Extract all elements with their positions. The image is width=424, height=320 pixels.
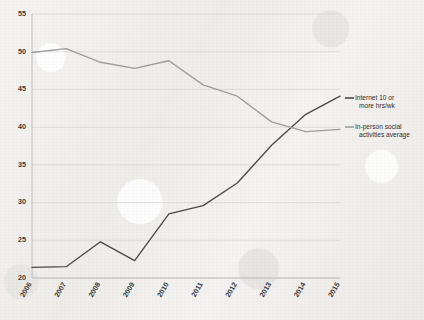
x-axis-tick-label: 2014 [292, 281, 308, 299]
x-axis-tick-labels: 2006200720082009201020112012201320142015 [18, 280, 342, 298]
y-axis-tick-label: 55 [18, 9, 26, 18]
line-chart: 2025303540455055 20062007200820092010201… [0, 0, 424, 320]
legend-label: Internet 10 or [355, 94, 395, 101]
series-line [32, 96, 340, 267]
x-axis-tick-label: 2006 [18, 281, 34, 299]
y-axis-tick-label: 25 [18, 235, 26, 244]
chart-canvas: 2025303540455055 20062007200820092010201… [0, 0, 424, 320]
x-axis-tick-label: 2013 [257, 281, 273, 299]
y-axis-tick-label: 35 [18, 160, 26, 169]
y-axis-tick-label: 40 [18, 122, 26, 131]
y-axis-tick-labels: 2025303540455055 [18, 9, 26, 282]
legend-label: more hrs/wk [359, 102, 396, 109]
x-axis-tick-label: 2007 [52, 281, 68, 299]
y-axis-tick-label: 30 [18, 197, 26, 206]
y-axis-tick-label: 50 [18, 47, 26, 56]
x-axis-tick-label: 2008 [86, 281, 102, 299]
legend-label: activities average [359, 131, 410, 139]
x-axis-tick-label: 2015 [326, 281, 342, 299]
x-axis-tick-label: 2011 [189, 280, 205, 298]
series-line [32, 49, 340, 132]
chart-legend: Internet 10 ormore hrs/wkIn-person socia… [345, 94, 410, 140]
data-series-lines [32, 49, 340, 268]
x-axis-tick-label: 2009 [121, 281, 137, 299]
legend-label: In-person social [355, 123, 402, 131]
x-axis-tick-label: 2012 [223, 281, 239, 299]
x-axis-tick-label: 2010 [155, 281, 171, 299]
y-axis-tick-label: 45 [18, 84, 26, 93]
